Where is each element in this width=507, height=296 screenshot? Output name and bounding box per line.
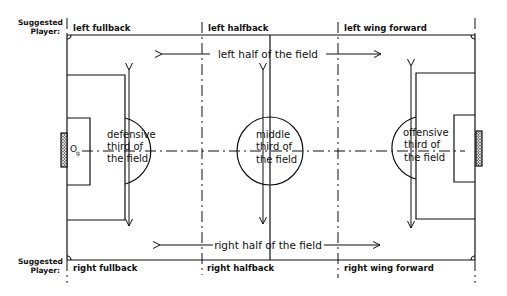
- svg-text:Player:: Player:: [30, 266, 60, 275]
- svg-text:g: g: [76, 149, 80, 157]
- svg-text:Suggested: Suggested: [18, 18, 63, 27]
- svg-text:middle: middle: [256, 129, 290, 140]
- goal-marker: O g: [70, 144, 80, 157]
- defensive-zone-label: defensive third of the field: [107, 129, 156, 164]
- position-right-halfback: right halfback: [207, 263, 275, 273]
- middle-zone-label: middle third of the field: [256, 129, 297, 165]
- soccer-field-diagram: Suggested Player: Suggested Player: left…: [0, 0, 507, 296]
- svg-text:third of: third of: [107, 141, 144, 152]
- right-goal-net-icon: [476, 131, 482, 166]
- position-left-fullback: left fullback: [73, 23, 131, 33]
- suggested-player-label-top: Suggested Player:: [18, 18, 63, 36]
- svg-text:the field: the field: [256, 154, 297, 165]
- position-right-fullback: right fullback: [73, 263, 138, 273]
- svg-text:Suggested: Suggested: [18, 257, 63, 266]
- suggested-player-label-bottom: Suggested Player:: [18, 257, 63, 275]
- position-right-wing-forward: right wing forward: [344, 263, 434, 273]
- svg-text:Player:: Player:: [30, 27, 60, 36]
- svg-text:the field: the field: [107, 153, 148, 164]
- svg-text:the field: the field: [404, 152, 445, 163]
- svg-text:third of: third of: [404, 139, 441, 150]
- offensive-zone-label: offensive third of the field: [403, 127, 449, 163]
- svg-text:defensive: defensive: [107, 129, 156, 140]
- left-goal-net-icon: [61, 133, 67, 167]
- svg-text:third of: third of: [256, 141, 293, 152]
- svg-text:offensive: offensive: [403, 127, 449, 138]
- left-half-label: left half of the field: [218, 48, 318, 60]
- position-left-wing-forward: left wing forward: [344, 23, 427, 33]
- right-goal-box: [454, 115, 475, 182]
- right-half-label: right half of the field: [214, 239, 322, 251]
- position-left-halfback: left halfback: [208, 23, 269, 33]
